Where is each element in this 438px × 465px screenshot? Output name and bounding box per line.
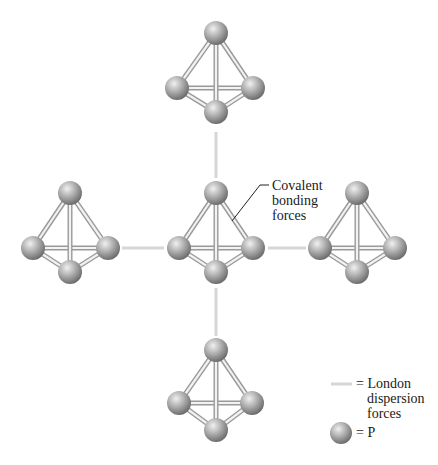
phosphorus-atom [204,418,228,442]
p4-molecule-center [167,181,265,284]
p4-diagram: Covalent bonding forces = London dispers… [0,0,438,465]
leader-line [232,185,269,221]
phosphorus-atom [241,236,265,260]
phosphorus-atom [58,181,82,205]
legend-london-line-1: London [367,376,411,391]
phosphorus-atom [204,181,228,205]
covalent-label-line-1: Covalent [272,178,323,193]
phosphorus-atom [240,391,264,415]
legend-london-line-2: dispersion [356,391,425,406]
phosphorus-atom [204,100,228,124]
p4-molecule-left [21,181,120,284]
legend-atom-label: = P [356,425,375,440]
phosphorus-atom [96,236,120,260]
phosphorus-atom [21,236,45,260]
phosphorus-atom [204,338,228,362]
covalent-bonding-label: Covalent bonding forces [272,178,323,223]
legend-equals-sign: = [356,376,364,391]
covalent-annotation [232,185,269,221]
legend-london-label: = London dispersion forces [356,376,425,421]
legend-phosphorus-label: P [367,425,375,440]
covalent-label-line-3: forces [272,208,323,223]
legend-phosphorus-atom-icon [330,422,352,444]
phosphorus-atom [308,236,332,260]
phosphorus-atom [383,236,407,260]
phosphorus-atom [167,391,191,415]
phosphorus-atom [204,260,228,284]
p4-molecule-top [165,21,265,124]
phosphorus-atom [241,76,265,100]
legend-london-line-3: forces [356,406,425,421]
legend-equals-sign-atom: = [356,425,364,440]
covalent-label-line-2: bonding [272,193,323,208]
p4-molecule-bottom [167,338,264,442]
phosphorus-atom [167,236,191,260]
phosphorus-atom [345,181,369,205]
p4-molecule-right [308,181,407,284]
phosphorus-atom [204,21,228,45]
legend [330,384,352,444]
molecules [21,21,407,442]
phosphorus-atom [165,76,189,100]
phosphorus-atom [58,260,82,284]
phosphorus-atom [345,260,369,284]
